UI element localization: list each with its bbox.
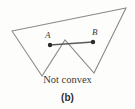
- segment-ab-line: [50, 42, 93, 45]
- figure-caption: Not convex: [0, 74, 135, 86]
- non-convex-polygon-outline: [12, 8, 126, 76]
- point-a-label: A: [45, 31, 51, 40]
- figure-part-label: (b): [0, 92, 135, 103]
- figure-not-convex: A B Not convex (b): [0, 0, 135, 109]
- point-b-marker: [91, 40, 95, 44]
- point-b-label: B: [92, 28, 98, 37]
- point-a-marker: [48, 43, 52, 47]
